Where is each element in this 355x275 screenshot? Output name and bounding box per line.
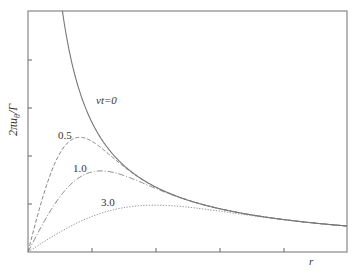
label-vt0: νt=0 [96,94,117,106]
curve-t0 [28,0,348,226]
label-vt05: 0.5 [58,129,72,141]
curve-0.5 [28,137,348,251]
axis-ticks [28,60,284,252]
plot-frame [28,11,347,252]
curve-1.0 [28,171,348,252]
y-axis-label: 2πuθ/Γ [6,103,22,136]
curves [28,0,348,252]
label-vt10: 1.0 [73,162,87,174]
curve-3.0 [28,205,348,252]
chart-canvas: 2πuθ/Γ r νt=0 0.5 1.0 3.0 [0,0,355,275]
label-vt30: 3.0 [101,196,115,208]
x-axis-label: r [309,255,314,267]
